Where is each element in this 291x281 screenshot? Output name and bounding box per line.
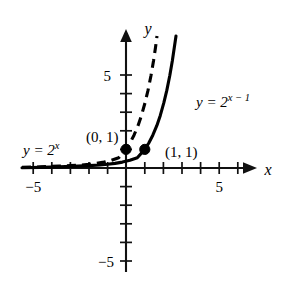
y-tick-label-negative-five: −5	[98, 254, 114, 270]
curve-label-y-equals-2-to-x: y = 2x	[21, 140, 60, 158]
point-1-1-marker	[140, 144, 150, 154]
y-axis-arrowhead	[120, 29, 132, 42]
graph-canvas: y x −5 5 5 −5 (0, 1) (1, 1) y = 2x y = 2…	[0, 0, 291, 281]
x-axis-label: x	[263, 161, 271, 178]
curve-label-right-exponent: x − 1	[227, 92, 250, 103]
point-label-0-1: (0, 1)	[86, 129, 119, 146]
exponential-functions-graph-figure: y x −5 5 5 −5 (0, 1) (1, 1) y = 2x y = 2…	[0, 0, 291, 281]
curve-label-left-base: y = 2	[21, 142, 55, 158]
y-tick-label-five: 5	[104, 68, 112, 84]
curve-label-y-equals-2-to-x-minus-1: y = 2x − 1	[194, 92, 250, 110]
point-0-1-marker	[121, 144, 131, 154]
x-tick-label-five: 5	[215, 179, 223, 195]
curve-label-right-base: y = 2	[194, 94, 228, 110]
point-label-1-1: (1, 1)	[165, 144, 198, 161]
x-axis-arrowhead	[243, 162, 257, 174]
curve-label-left-exponent: x	[54, 140, 60, 151]
y-axis-label: y	[142, 20, 152, 38]
x-tick-label-negative-five: −5	[25, 179, 41, 195]
